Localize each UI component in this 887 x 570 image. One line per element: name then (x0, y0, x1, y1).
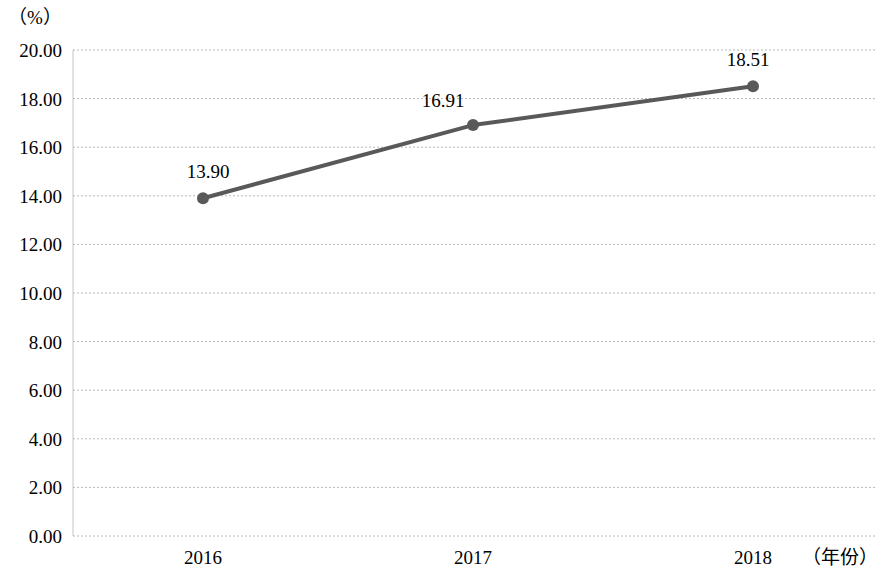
data-point-marker (197, 192, 209, 204)
chart-canvas (0, 0, 887, 570)
y-axis-tick-label: 2.00 (0, 478, 62, 497)
x-axis-tick-label: 2016 (153, 548, 253, 567)
x-axis-unit-label: （年份） (802, 548, 878, 567)
y-axis-tick-label: 4.00 (0, 430, 62, 449)
data-point-marker (747, 80, 759, 92)
y-axis-tick-label: 18.00 (0, 90, 62, 109)
y-axis-tick-label: 8.00 (0, 333, 62, 352)
data-point-value-label: 18.51 (698, 50, 798, 69)
data-point-value-label: 16.91 (393, 91, 493, 110)
y-axis-tick-label: 14.00 (0, 187, 62, 206)
line-chart: （%） （年份） 20.0018.0016.0014.0012.0010.008… (0, 0, 887, 570)
data-point-value-label: 13.90 (158, 162, 258, 181)
y-axis-unit-label: （%） (8, 8, 62, 27)
y-axis-tick-label: 6.00 (0, 381, 62, 400)
x-axis-tick-label: 2017 (423, 548, 523, 567)
y-axis-tick-label: 0.00 (0, 527, 62, 546)
y-axis-tick-label: 20.00 (0, 41, 62, 60)
y-axis-tick-label: 10.00 (0, 284, 62, 303)
y-axis-tick-label: 16.00 (0, 138, 62, 157)
x-axis-tick-label: 2018 (703, 548, 803, 567)
data-point-marker (467, 119, 479, 131)
y-axis-tick-label: 12.00 (0, 235, 62, 254)
